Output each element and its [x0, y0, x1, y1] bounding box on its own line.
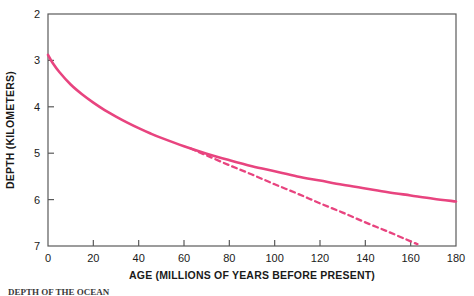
x-tick-label-140: 140 [356, 252, 374, 264]
x-tick-label-60: 60 [178, 252, 190, 264]
theoretical-cooling-curve [191, 149, 418, 245]
x-tick-label-120: 120 [311, 252, 329, 264]
depth-vs-age-plot: 234567 020406080100120140160180 AGE (MIL… [0, 0, 474, 296]
y-axis-title: DEPTH (KILOMETERS) [4, 71, 16, 189]
x-tick-label-80: 80 [223, 252, 235, 264]
observed-depth-curve [48, 55, 456, 202]
y-tick-label-6: 6 [34, 194, 40, 206]
x-tick-label-100: 100 [265, 252, 283, 264]
y-tick-label-4: 4 [34, 101, 40, 113]
y-tick-label-3: 3 [34, 54, 40, 66]
x-tick-label-180: 180 [447, 252, 465, 264]
y-tick-label-2: 2 [34, 8, 40, 20]
y-tick-label-5: 5 [34, 147, 40, 159]
x-axis-title: AGE (MILLIONS OF YEARS BEFORE PRESENT) [129, 269, 375, 281]
cut-off-caption: DEPTH OF THE OCEAN [8, 288, 198, 296]
x-tick-label-40: 40 [133, 252, 145, 264]
x-tick-label-160: 160 [401, 252, 419, 264]
x-tick-label-0: 0 [45, 252, 51, 264]
x-axis-ticks [93, 240, 410, 246]
y-tick-label-7: 7 [34, 240, 40, 252]
y-axis-ticks [48, 60, 54, 199]
chart-figure: 234567 020406080100120140160180 AGE (MIL… [0, 0, 474, 296]
x-axis-tick-labels: 020406080100120140160180 [45, 252, 465, 264]
x-tick-label-20: 20 [87, 252, 99, 264]
data-series-group [48, 55, 456, 244]
y-axis-tick-labels: 234567 [34, 8, 40, 252]
plot-frame [48, 14, 456, 246]
